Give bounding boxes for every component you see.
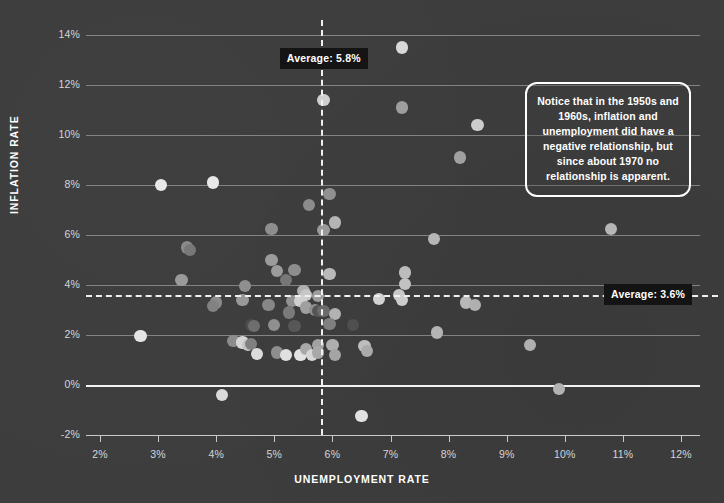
- x-tick-label: 8%: [419, 448, 479, 460]
- data-point[interactable]: [329, 349, 341, 361]
- y-tick-label: 4%: [34, 278, 80, 290]
- x-tick-label: 9%: [477, 448, 537, 460]
- x-axis-line: [86, 435, 700, 436]
- average-line-vertical: [321, 20, 323, 435]
- data-point[interactable]: [175, 274, 187, 286]
- data-point[interactable]: [524, 339, 536, 351]
- data-point[interactable]: [134, 330, 146, 342]
- x-tick-mark: [623, 436, 624, 442]
- y-tick-label: 0%: [34, 378, 80, 390]
- x-axis-title: UNEMPLOYMENT RATE: [0, 473, 724, 485]
- x-tick-label: 3%: [128, 448, 188, 460]
- data-point[interactable]: [347, 319, 359, 331]
- data-point[interactable]: [265, 223, 277, 235]
- data-point[interactable]: [216, 389, 228, 401]
- data-point[interactable]: [251, 348, 263, 360]
- data-point[interactable]: [239, 280, 251, 292]
- x-tick-mark: [100, 436, 101, 442]
- x-tick-label: 10%: [535, 448, 595, 460]
- x-tick-mark: [681, 436, 682, 442]
- data-point[interactable]: [361, 345, 373, 357]
- data-point[interactable]: [323, 188, 335, 200]
- data-point[interactable]: [329, 216, 341, 228]
- data-point[interactable]: [469, 299, 481, 311]
- x-tick-mark: [565, 436, 566, 442]
- data-point[interactable]: [288, 264, 300, 276]
- data-point[interactable]: [605, 223, 617, 235]
- data-point[interactable]: [283, 306, 295, 318]
- x-tick-label: 11%: [593, 448, 653, 460]
- zero-gridline: [86, 385, 700, 387]
- annotation-callout: Notice that in the 1950s and 1960s, infl…: [525, 82, 691, 197]
- data-point[interactable]: [399, 278, 411, 290]
- data-point[interactable]: [553, 383, 565, 395]
- x-tick-label: 12%: [651, 448, 711, 460]
- data-point[interactable]: [155, 179, 167, 191]
- y-tick-label: 8%: [34, 178, 80, 190]
- data-point[interactable]: [454, 151, 466, 163]
- gridline: [86, 35, 700, 36]
- data-point[interactable]: [280, 349, 292, 361]
- data-point[interactable]: [268, 319, 280, 331]
- y-axis-title: INFLATION RATE: [8, 64, 20, 214]
- x-tick-label: 7%: [361, 448, 421, 460]
- data-point[interactable]: [317, 224, 329, 236]
- data-point[interactable]: [184, 244, 196, 256]
- data-point[interactable]: [323, 318, 335, 330]
- y-tick-label: 2%: [34, 328, 80, 340]
- data-point[interactable]: [317, 94, 329, 106]
- x-tick-label: 6%: [302, 448, 362, 460]
- gridline: [86, 335, 700, 336]
- data-point[interactable]: [262, 299, 274, 311]
- x-tick-mark: [507, 436, 508, 442]
- data-point[interactable]: [396, 101, 408, 113]
- y-tick-label: 6%: [34, 228, 80, 240]
- x-tick-label: 4%: [186, 448, 246, 460]
- x-tick-mark: [332, 436, 333, 442]
- average-label-horizontal: Average: 3.6%: [604, 284, 692, 305]
- chart-root: -2%0%2%4%6%8%10%12%14%2%3%4%5%6%7%8%9%10…: [0, 0, 724, 503]
- x-tick-mark: [216, 436, 217, 442]
- data-point[interactable]: [288, 320, 300, 332]
- y-tick-label: 12%: [34, 78, 80, 90]
- y-tick-label: -2%: [34, 428, 80, 440]
- data-point[interactable]: [323, 268, 335, 280]
- x-tick-mark: [391, 436, 392, 442]
- data-point[interactable]: [399, 266, 411, 278]
- data-point[interactable]: [355, 410, 367, 422]
- y-tick-label: 14%: [34, 28, 80, 40]
- data-point[interactable]: [471, 119, 483, 131]
- gridline: [86, 235, 700, 236]
- data-point[interactable]: [207, 176, 219, 188]
- data-point[interactable]: [396, 41, 408, 53]
- x-tick-label: 5%: [244, 448, 304, 460]
- x-tick-mark: [274, 436, 275, 442]
- scatter-plot-area: -2%0%2%4%6%8%10%12%14%2%3%4%5%6%7%8%9%10…: [0, 0, 724, 503]
- data-point[interactable]: [303, 199, 315, 211]
- x-tick-label: 2%: [70, 448, 130, 460]
- data-point[interactable]: [431, 326, 443, 338]
- y-tick-label: 10%: [34, 128, 80, 140]
- data-point[interactable]: [317, 305, 329, 317]
- data-point[interactable]: [207, 300, 219, 312]
- x-tick-mark: [158, 436, 159, 442]
- data-point[interactable]: [428, 233, 440, 245]
- data-point[interactable]: [248, 320, 260, 332]
- x-tick-mark: [449, 436, 450, 442]
- average-label-vertical: Average: 5.8%: [280, 48, 368, 69]
